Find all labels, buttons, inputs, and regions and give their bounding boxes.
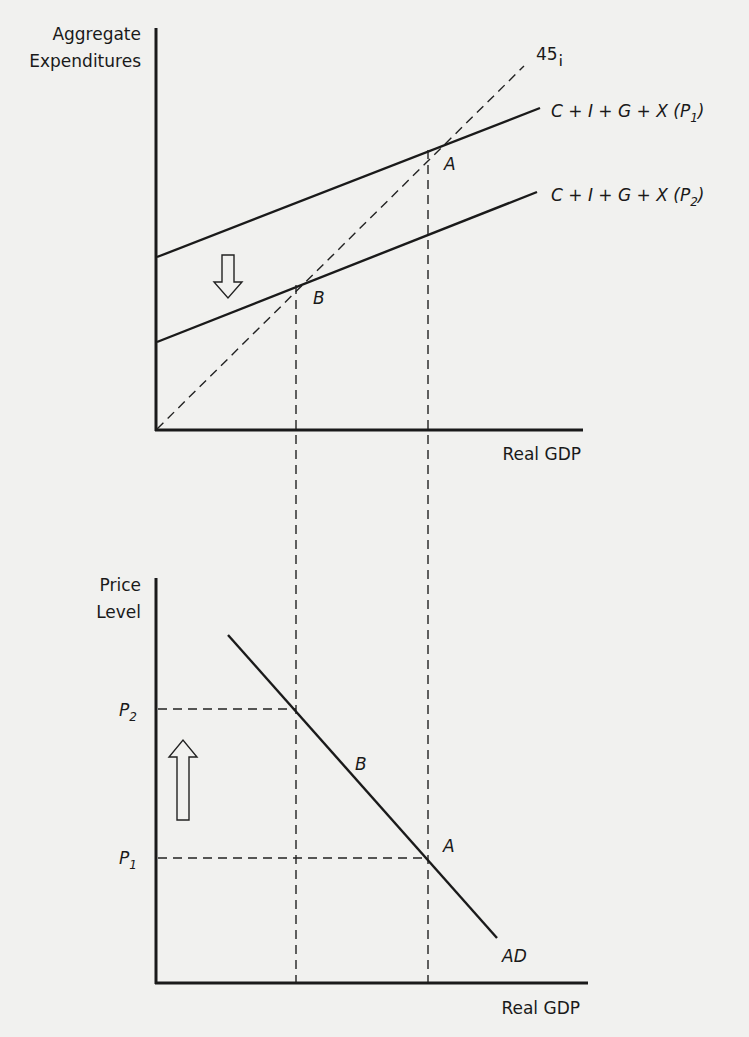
forty-five-degree-line: [157, 66, 524, 429]
forty-five-degree-label: 45¡: [536, 44, 564, 67]
top-panel: Aggregate Expenditures Real GDP 45¡ C + …: [29, 24, 704, 464]
ae-curve-p2: [157, 192, 537, 342]
top-y-axis-label-line1: Aggregate: [52, 24, 141, 44]
top-y-axis-label-line2: Expenditures: [29, 51, 141, 71]
top-point-b-label: B: [313, 288, 325, 308]
p1-label: P1: [119, 848, 137, 872]
ad-curve: [228, 635, 497, 938]
ad-curve-label: AD: [501, 946, 527, 966]
ae-curve-p1: [157, 108, 540, 257]
down-arrow-icon: [214, 255, 242, 298]
up-arrow-icon: [169, 740, 197, 820]
bottom-point-b-label: B: [355, 754, 367, 774]
bottom-x-axis-label: Real GDP: [501, 998, 580, 1018]
bottom-panel: Price Level Real GDP P2 P1 AD B A: [96, 575, 588, 1018]
p2-label: P2: [119, 700, 137, 724]
bottom-y-axis-label-line1: Price: [100, 575, 141, 595]
bottom-y-axis-label-line2: Level: [96, 602, 141, 622]
diagram-canvas: Aggregate Expenditures Real GDP 45¡ C + …: [0, 0, 749, 1037]
ae-curve-p2-label: C + I + G + X (P2): [551, 185, 704, 209]
top-x-axis-label: Real GDP: [502, 444, 581, 464]
top-point-a-label: A: [443, 154, 456, 174]
ae-curve-p1-label: C + I + G + X (P1): [551, 101, 704, 125]
bottom-point-a-label: A: [442, 836, 455, 856]
